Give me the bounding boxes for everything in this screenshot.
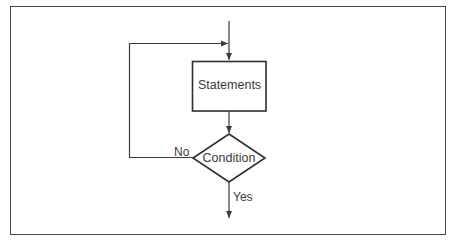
flowchart-graphics xyxy=(0,0,454,244)
flowchart-canvas: Statements Condition No Yes xyxy=(0,0,454,244)
yes-branch-label: Yes xyxy=(233,191,253,203)
condition-label: Condition xyxy=(192,152,266,165)
no-branch-label: No xyxy=(174,146,189,158)
statements-label: Statements xyxy=(192,79,267,92)
